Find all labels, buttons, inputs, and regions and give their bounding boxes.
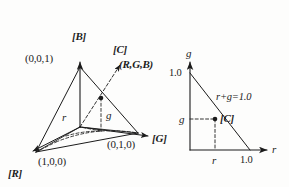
blue-axis-label: [B]	[72, 31, 86, 42]
chromaticity-chart-group	[190, 62, 267, 150]
green-vertex-coord-label: (0,1,0)	[107, 139, 135, 150]
blue-vertex-coord-label: (0,0,1)	[25, 53, 53, 64]
figure-container: [B] (0,0,1) [C] (R,G,B) r g (1,0,0) [R] …	[0, 0, 289, 187]
chromaticity-point-label: [C]	[220, 113, 234, 124]
chart-r-axis-label: r	[272, 144, 276, 155]
g-value-tick-label: g	[179, 114, 184, 125]
red-vertex-coord-label: (1,0,0)	[38, 156, 66, 167]
g-component-label: g	[106, 110, 111, 121]
chromaticity-point-marker	[213, 117, 218, 122]
red-axis-label: [R]	[8, 168, 22, 179]
r-axis-max-tick-label: 1.0	[240, 155, 253, 166]
color-point-label: [C]	[113, 44, 127, 55]
constraint-line-label: r+g=1.0	[216, 92, 251, 103]
color-point-coord-label: (R,G,B)	[119, 59, 153, 70]
green-axis-label: [G]	[152, 133, 167, 144]
r-component-label: r	[62, 112, 66, 123]
edge-blue-to-green	[80, 67, 138, 133]
r-value-tick-label: r	[212, 155, 216, 166]
chart-g-axis-label: g	[186, 48, 191, 59]
g-axis-max-tick-label: 1.0	[169, 68, 182, 79]
color-point-marker	[99, 96, 104, 101]
